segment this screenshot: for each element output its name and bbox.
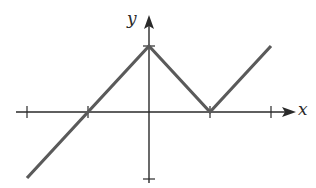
graph-canvas [0, 0, 316, 188]
y-axis-label: y [127, 8, 137, 28]
x-axis-label: x [298, 99, 308, 119]
